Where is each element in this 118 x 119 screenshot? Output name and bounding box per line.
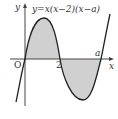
y-axis-label: y <box>14 2 21 12</box>
tick-label-a: a <box>95 48 100 58</box>
y-axis-arrow-icon <box>23 3 27 8</box>
origin-label: O <box>14 60 21 70</box>
shaded-region-positive <box>25 18 60 59</box>
equation-label: y=x(x−2)(x−a) <box>31 4 101 14</box>
shaded-region-negative <box>60 59 101 100</box>
cubic-diagram: y y=x(x−2)(x−a) O 2 a x <box>0 0 118 119</box>
x-axis-label: x <box>109 61 114 71</box>
tick-label-2: 2 <box>56 60 62 70</box>
